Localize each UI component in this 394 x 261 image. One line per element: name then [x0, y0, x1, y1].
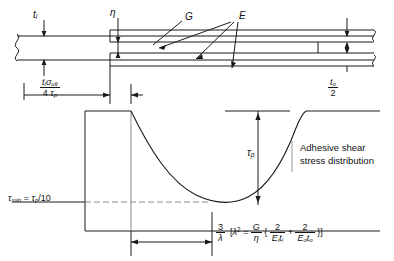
label-adhesive-thickness: η	[110, 8, 116, 18]
annotation-line-2: stress distribution	[300, 155, 374, 168]
figure-vector	[0, 0, 394, 261]
label-outer-half-thickness: to 2	[328, 77, 338, 98]
tau-p-arrow-down	[255, 196, 260, 203]
break-symbol-left	[15, 34, 18, 61]
left-dim-arrow-right	[103, 92, 110, 97]
to-arrow-up	[345, 42, 350, 48]
shear-stress-curve	[131, 111, 306, 202]
label-tau-p: τp	[247, 148, 255, 159]
e-leader-line-3	[232, 22, 238, 68]
figure-root: ti η G E tiσult 4 τp to 2 τp τmin	[0, 0, 394, 261]
label-tau-min: τmin = τp/10	[8, 194, 51, 203]
bottom-dim-arrow-left	[131, 239, 138, 244]
label-shear-modulus: G	[185, 12, 193, 22]
second-dim-arrow	[131, 92, 138, 97]
label-youngs-modulus: E	[239, 11, 246, 21]
label-inner-thickness: ti	[33, 10, 37, 21]
e-arrowhead-2	[196, 54, 203, 59]
tau-p-arrow-up	[255, 113, 260, 120]
label-overlap-end-dimension: tiσult 4 τp	[40, 77, 60, 99]
bottom-dim-arrow-right	[205, 239, 212, 244]
annotation-line-1: Adhesive shear	[300, 142, 374, 155]
annotation-adhesive-shear-stress: Adhesive shear stress distribution	[300, 142, 374, 168]
label-decay-length-equation: 3 λ [λ2 = G η { 2 Eiti + 2 Eoto }]	[216, 222, 323, 243]
